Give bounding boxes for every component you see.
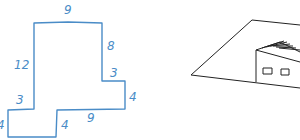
label-far-left: 4: [0, 119, 5, 131]
label-inner-vertical: 4: [61, 119, 69, 131]
window-2: [281, 69, 289, 75]
label-right-upper: 8: [107, 40, 115, 52]
label-bottom-right: 9: [87, 112, 95, 124]
label-right-lower: 4: [129, 91, 137, 103]
label-left-upper: 12: [14, 59, 29, 71]
diagram-canvas: [0, 0, 300, 140]
window-1: [263, 68, 272, 74]
label-step-top: 3: [110, 67, 118, 79]
building-sketch: [256, 41, 300, 82]
label-top: 9: [64, 4, 72, 16]
plot-outline: [191, 20, 300, 88]
label-left-step: 3: [16, 94, 24, 106]
